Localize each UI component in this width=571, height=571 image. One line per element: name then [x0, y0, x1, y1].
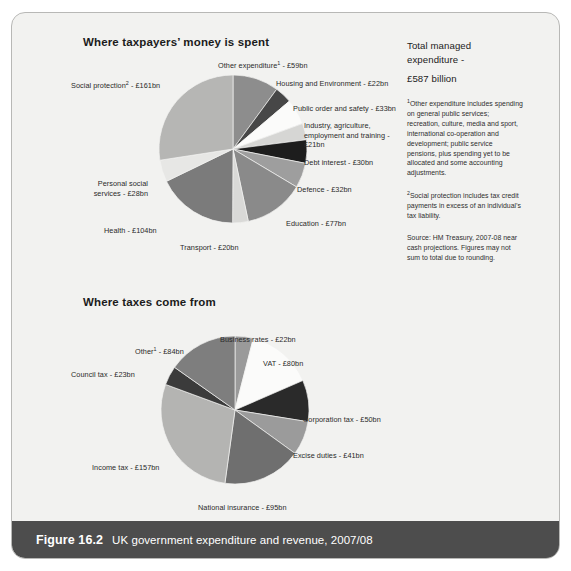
label-public-order-safety: Public order and safety - £33bn [293, 104, 396, 114]
expenditure-panel: Where taxpayers’ money is spent Other ex… [12, 13, 560, 275]
label-debt-interest: Debt interest - £30bn [304, 158, 373, 168]
figure-caption-text: UK government expenditure and revenue, 2… [112, 534, 373, 546]
expenditure-total-title: Total managedexpenditure - [407, 39, 523, 66]
expenditure-pie-chart [158, 74, 308, 224]
pie-slice [159, 75, 233, 160]
label-housing-environment: Housing and Environment - £22bn [276, 79, 388, 89]
receipts-chart-title: Where taxes come from [83, 296, 216, 308]
expenditure-side-column: Total managedexpenditure - £587 billion … [407, 39, 523, 263]
label-council-tax: Council tax - £23bn [71, 370, 135, 380]
label-income-tax: Income tax - £157bn [92, 463, 159, 473]
label-vat: VAT - £80bn [263, 359, 303, 369]
label-business-rates: Business rates - £22bn [220, 335, 296, 345]
figure-caption-bar: Figure 16.2 UK government expenditure an… [12, 521, 560, 558]
expenditure-footnote-2: 2Social protection includes tax credit p… [407, 191, 523, 221]
label-defence: Defence - £32bn [297, 185, 352, 195]
label-industry-agriculture: Industry, agriculture, employment and tr… [304, 121, 396, 150]
label-other-receipts: Other1 - £84bn [135, 347, 184, 357]
expenditure-chart-title: Where taxpayers’ money is spent [83, 36, 269, 48]
expenditure-footnote-1: 1Other expenditure includes spending on … [407, 99, 523, 179]
figure-number: Figure 16.2 [36, 533, 103, 547]
label-other-expenditure: Other expenditure1 - £59bn [218, 61, 308, 71]
label-education: Education - £77bn [286, 219, 346, 229]
figure-card: Where taxpayers’ money is spent Other ex… [11, 12, 560, 559]
label-personal-social-services: Personal social services - £28bn [74, 179, 148, 198]
label-health: Health - £104bn [104, 226, 157, 236]
label-corporation-tax: Corporation tax - £50bn [303, 415, 381, 425]
receipts-pie-chart [160, 335, 310, 485]
label-excise-duties: Excise duties - £41bn [293, 451, 364, 461]
expenditure-source: Source: HM Treasury, 2007-08 near cash p… [407, 233, 523, 263]
expenditure-total-value: £587 billion [407, 72, 523, 86]
expenditure-pie-svg [158, 74, 308, 224]
label-transport: Transport - £20bn [180, 243, 239, 253]
label-social-protection: Social protection2 - £161bn [71, 81, 160, 91]
receipts-pie-svg [160, 335, 310, 485]
label-national-insurance: National insurance - £95bn [198, 503, 287, 513]
